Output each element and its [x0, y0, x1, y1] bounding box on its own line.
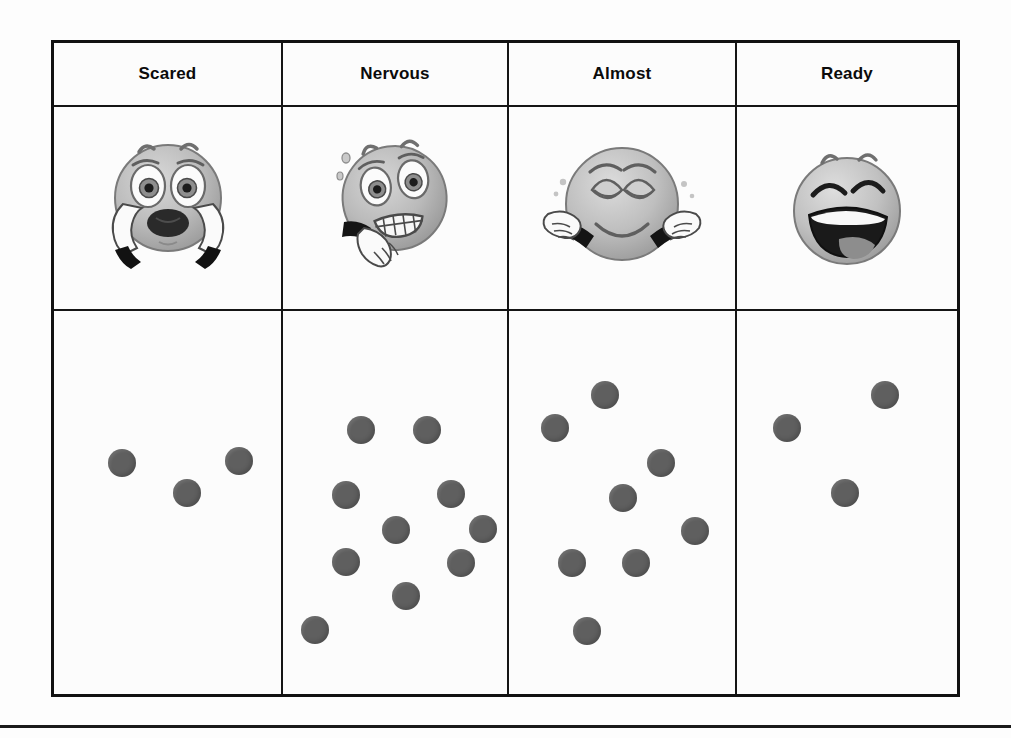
nervous-face-icon: [320, 126, 470, 291]
feelings-scale-table: Scared Nervous Almost Ready: [51, 40, 960, 697]
dot: [447, 549, 475, 577]
header-cell-scared: Scared: [54, 43, 281, 105]
column-label-ready: Ready: [821, 64, 873, 84]
dot: [541, 414, 569, 442]
face-cell-scared: [54, 107, 281, 309]
dot: [831, 479, 859, 507]
column-label-scared: Scared: [139, 64, 197, 84]
dot: [382, 516, 410, 544]
dot: [871, 381, 899, 409]
dot: [225, 447, 253, 475]
dot: [647, 449, 675, 477]
dot: [332, 481, 360, 509]
dot: [413, 416, 441, 444]
column-label-nervous: Nervous: [360, 64, 429, 84]
dot: [469, 515, 497, 543]
dot: [573, 617, 601, 645]
dot: [681, 517, 709, 545]
page-canvas: Scared Nervous Almost Ready: [0, 0, 1011, 738]
header-cell-almost: Almost: [509, 43, 735, 105]
scared-face-icon: [93, 126, 243, 291]
dot: [173, 479, 201, 507]
dots-cell-scared: [54, 311, 281, 694]
dot: [108, 449, 136, 477]
dots-cell-nervous: [283, 311, 507, 694]
almost-face-icon: [538, 128, 706, 288]
header-cell-nervous: Nervous: [283, 43, 507, 105]
dot: [301, 616, 329, 644]
dot: [609, 484, 637, 512]
dot: [591, 381, 619, 409]
dots-cell-ready: [737, 311, 957, 694]
dot: [392, 582, 420, 610]
face-cell-ready: [737, 107, 957, 309]
header-cell-ready: Ready: [737, 43, 957, 105]
face-cell-almost: [509, 107, 735, 309]
ready-face-icon: [777, 133, 917, 283]
dot: [773, 414, 801, 442]
dot: [332, 548, 360, 576]
dot: [558, 549, 586, 577]
dot: [437, 480, 465, 508]
page-footer-rule: [0, 725, 1011, 728]
dot: [622, 549, 650, 577]
dots-cell-almost: [509, 311, 735, 694]
dot: [347, 416, 375, 444]
face-cell-nervous: [283, 107, 507, 309]
column-label-almost: Almost: [593, 64, 652, 84]
